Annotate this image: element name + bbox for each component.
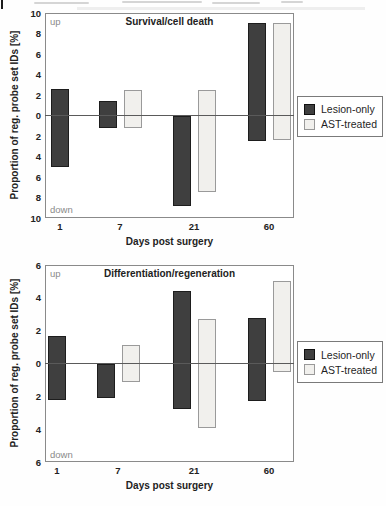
- bar-lesion-only-day-21: [173, 116, 191, 206]
- survival-y-tick-label: 10: [17, 8, 41, 19]
- survival-x-tick-label: 1: [57, 221, 62, 232]
- scanned-figure-page: Survival/cell death up down Proportion o…: [0, 0, 386, 506]
- lesion-only-swatch: [304, 104, 315, 115]
- differentiation-up-label: up: [50, 268, 61, 279]
- differentiation-down-label: down: [50, 449, 73, 460]
- differentiation-y-tick-label: 6: [17, 260, 41, 271]
- differentiation-x-axis-label: Days post surgery: [45, 480, 294, 491]
- scan-artifact-smudge: [122, 1, 202, 3]
- survival-y-tick-label: 6: [17, 172, 41, 183]
- differentiation-chart-title: Differentiation/regeneration: [45, 268, 294, 279]
- legend-label-lesion-only: Lesion-only: [321, 349, 375, 361]
- scan-artifact-smudge: [34, 2, 89, 4]
- ast-treated-swatch: [304, 119, 315, 130]
- bar-ast-treated-day-7: [124, 90, 142, 128]
- differentiation-y-tick-label: 4: [17, 424, 41, 435]
- bar-lesion-only-day-60: [248, 23, 266, 141]
- survival-zero-line: [45, 115, 294, 116]
- bar-lesion-only-day-7: [97, 364, 115, 398]
- legend-label-ast-treated: AST-treated: [321, 364, 377, 376]
- bar-ast-treated-day-60: [273, 23, 291, 140]
- survival-y-tick-label: 8: [17, 28, 41, 39]
- survival-legend: Lesion-only AST-treated: [297, 96, 383, 137]
- survival-up-label: up: [50, 16, 61, 27]
- bar-ast-treated-day-21: [198, 319, 216, 427]
- legend-item-lesion-only: Lesion-only: [304, 349, 376, 361]
- bar-lesion-only-day-1: [51, 89, 69, 167]
- survival-y-tick-label: 2: [17, 90, 41, 101]
- differentiation-x-tick-label: 60: [264, 465, 275, 476]
- scan-artifact-smudge: [212, 2, 260, 4]
- differentiation-x-tick-label: 7: [115, 465, 120, 476]
- bar-lesion-only-day-21: [173, 291, 191, 409]
- differentiation-x-tick-label: 21: [189, 465, 200, 476]
- lesion-only-swatch: [304, 349, 315, 360]
- bar-lesion-only-day-60: [248, 318, 266, 402]
- differentiation-legend: Lesion-only AST-treated: [297, 341, 383, 383]
- survival-x-tick-label: 21: [189, 221, 200, 232]
- bar-lesion-only-day-1: [48, 336, 66, 400]
- legend-item-ast-treated: AST-treated: [304, 118, 376, 130]
- differentiation-y-tick-label: 4: [17, 292, 41, 303]
- survival-y-tick-label: 4: [17, 69, 41, 80]
- survival-chart-title: Survival/cell death: [45, 16, 294, 27]
- differentiation-y-tick-label: 2: [17, 325, 41, 336]
- scan-artifact-band: [77, 7, 365, 10]
- bar-ast-treated-day-21: [198, 90, 216, 193]
- scan-artifact-smudge: [281, 1, 303, 3]
- legend-item-lesion-only: Lesion-only: [304, 103, 376, 115]
- legend-label-lesion-only: Lesion-only: [321, 103, 375, 115]
- survival-x-tick-label: 7: [117, 221, 122, 232]
- survival-y-tick-label: 4: [17, 151, 41, 162]
- survival-x-tick-label: 60: [264, 221, 275, 232]
- differentiation-x-tick-label: 1: [54, 465, 59, 476]
- differentiation-zero-line: [45, 363, 294, 364]
- survival-y-tick-label: 10: [17, 213, 41, 224]
- survival-y-tick-label: 2: [17, 131, 41, 142]
- survival-down-label: down: [50, 204, 73, 215]
- survival-y-tick-label: 8: [17, 192, 41, 203]
- legend-item-ast-treated: AST-treated: [304, 364, 376, 376]
- legend-label-ast-treated: AST-treated: [321, 118, 377, 130]
- survival-y-tick-label: 0: [17, 110, 41, 121]
- differentiation-y-tick-label: 2: [17, 391, 41, 402]
- scan-artifact-corner-mark: [1, 0, 3, 9]
- survival-x-axis-label: Days post surgery: [45, 236, 294, 247]
- differentiation-y-tick-label: 0: [17, 358, 41, 369]
- differentiation-y-tick-label: 6: [17, 457, 41, 468]
- bar-ast-treated-day-60: [273, 281, 291, 371]
- ast-treated-swatch: [304, 364, 315, 375]
- survival-y-tick-label: 6: [17, 49, 41, 60]
